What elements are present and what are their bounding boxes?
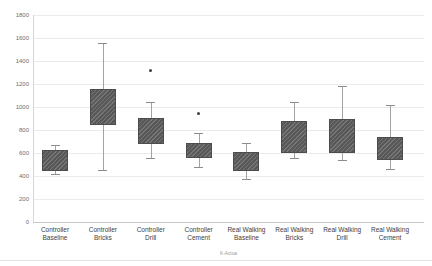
- x-axis-category-line: Bricks: [80, 234, 126, 242]
- whisker-cap-high: [51, 145, 60, 146]
- gridline-1600: [33, 38, 424, 39]
- whisker-cap-low: [242, 179, 251, 180]
- x-axis-category-line: Real Walking: [367, 226, 413, 234]
- box-controller-drill: [138, 118, 164, 144]
- outlier-point: [149, 69, 152, 72]
- x-axis-category-line: Controller: [128, 226, 174, 234]
- gridline-1800: [33, 15, 424, 16]
- chart-footer-note: K-Actua: [72, 251, 385, 256]
- whisker-cap-low: [290, 158, 299, 159]
- whisker-cap-low: [146, 158, 155, 159]
- x-axis-category-label: ControllerBaseline: [32, 226, 78, 242]
- x-axis-category-line: Bricks: [271, 234, 317, 242]
- outlier-point: [197, 112, 200, 115]
- y-axis-tick-label: 1000: [5, 104, 29, 110]
- box-controller-bricks: [90, 89, 116, 125]
- whisker-cap-low: [338, 160, 347, 161]
- whisker-cap-high: [146, 102, 155, 103]
- y-axis-tick-label: 1600: [5, 35, 29, 41]
- whisker-cap-low: [98, 170, 107, 171]
- y-axis-tick-label: 800: [5, 127, 29, 133]
- x-axis-category-label: ControllerBricks: [80, 226, 126, 242]
- y-axis-tick-label: 0: [5, 219, 29, 225]
- whisker-cap-high: [290, 102, 299, 103]
- gridline-400: [33, 176, 424, 177]
- box-real-walking-bricks: [281, 121, 307, 153]
- whisker-cap-low: [194, 167, 203, 168]
- y-axis-tick-label: 600: [5, 150, 29, 156]
- x-axis-category-line: Real Walking: [271, 226, 317, 234]
- box-real-walking-drill: [329, 119, 355, 154]
- whisker-cap-high: [242, 143, 251, 144]
- gridline-200: [33, 199, 424, 200]
- x-axis-category-label: Real WalkingBricks: [271, 226, 317, 242]
- boxplot-chart: 020040060080010001200140016001800Control…: [0, 0, 432, 266]
- x-axis-category-line: Controller: [32, 226, 78, 234]
- y-axis-tick-label: 200: [5, 196, 29, 202]
- page-divider: [0, 260, 432, 261]
- x-axis-category-line: Controller: [80, 226, 126, 234]
- x-axis-category-line: Cement: [367, 234, 413, 242]
- x-axis-category-label: ControllerCement: [176, 226, 222, 242]
- x-axis-category-line: Baseline: [32, 234, 78, 242]
- y-axis-line: [33, 15, 34, 222]
- whisker-cap-high: [194, 133, 203, 134]
- box-controller-baseline: [42, 150, 68, 171]
- whisker-cap-high: [98, 43, 107, 44]
- box-real-walking-cement: [377, 137, 403, 160]
- y-axis-tick-label: 1800: [5, 12, 29, 18]
- gridline-1200: [33, 84, 424, 85]
- y-axis-tick-label: 1400: [5, 58, 29, 64]
- box-controller-cement: [186, 143, 212, 158]
- x-axis-category-label: Real WalkingCement: [367, 226, 413, 242]
- x-axis-category-line: Baseline: [223, 234, 269, 242]
- x-axis-line: [33, 222, 424, 223]
- x-axis-category-line: Cement: [176, 234, 222, 242]
- box-real-walking-baseline: [233, 152, 259, 172]
- gridline-600: [33, 153, 424, 154]
- x-axis-category-label: Real WalkingBaseline: [223, 226, 269, 242]
- x-axis-category-line: Real Walking: [223, 226, 269, 234]
- whisker-cap-high: [338, 86, 347, 87]
- whisker-cap-low: [51, 174, 60, 175]
- x-axis-category-line: Controller: [176, 226, 222, 234]
- x-axis-category-line: Drill: [319, 234, 365, 242]
- whisker-cap-high: [386, 105, 395, 106]
- x-axis-category-line: Drill: [128, 234, 174, 242]
- gridline-800: [33, 130, 424, 131]
- y-axis-tick-label: 400: [5, 173, 29, 179]
- x-axis-category-label: ControllerDrill: [128, 226, 174, 242]
- y-axis-tick-label: 1200: [5, 81, 29, 87]
- x-axis-category-line: Real Walking: [319, 226, 365, 234]
- whisker-cap-low: [386, 169, 395, 170]
- x-axis-category-label: Real WalkingDrill: [319, 226, 365, 242]
- gridline-1400: [33, 61, 424, 62]
